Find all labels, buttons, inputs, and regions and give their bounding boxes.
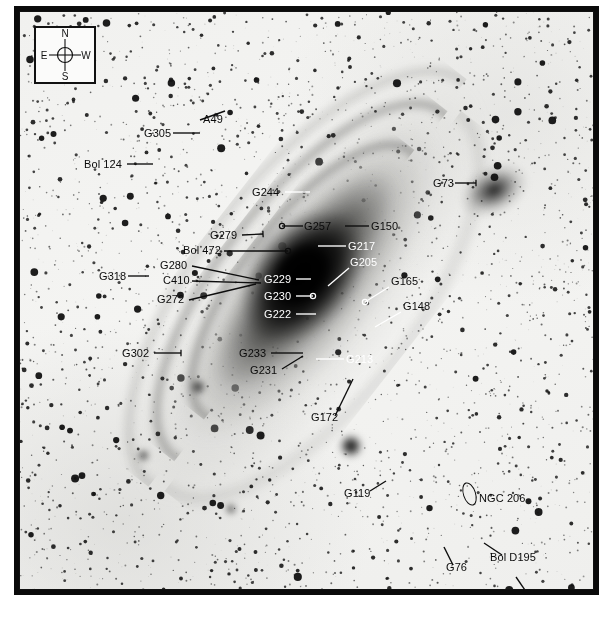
leader-line-c410 xyxy=(192,281,261,283)
object-label-g150: G150 xyxy=(371,221,398,232)
object-label-g217: G217 xyxy=(348,241,375,252)
object-label-g318: G318 xyxy=(99,271,126,282)
object-label-a49: A49 xyxy=(203,114,223,125)
leader-line-g119 xyxy=(370,481,386,491)
image-frame: A49G305Bol 124G73G244G257G150G279G217Bol… xyxy=(14,6,599,595)
leader-line-g205 xyxy=(328,268,349,286)
object-label-g73: G73 xyxy=(433,178,454,189)
object-label-g230: G230 xyxy=(264,291,291,302)
object-label-g231: G231 xyxy=(250,365,277,376)
object-label-bol472: Bol 472 xyxy=(183,245,221,256)
object-label-g148: G148 xyxy=(403,301,430,312)
compass-label-west: W xyxy=(81,50,91,61)
compass-label-north: N xyxy=(61,28,68,39)
object-label-c410: C410 xyxy=(163,275,190,286)
leader-line-g280 xyxy=(192,266,259,280)
object-label-g233: G233 xyxy=(239,348,266,359)
object-label-g222: G222 xyxy=(264,309,291,320)
leader-line-g148 xyxy=(375,312,401,327)
object-label-g205: G205 xyxy=(350,257,377,268)
object-label-bold195: Bol D195 xyxy=(490,552,536,563)
image-canvas: A49G305Bol 124G73G244G257G150G279G217Bol… xyxy=(19,11,594,590)
object-label-g172: G172 xyxy=(311,412,338,423)
object-label-g213: G213 xyxy=(346,354,373,365)
leader-line-g33 xyxy=(516,577,527,590)
object-label-g257: G257 xyxy=(304,221,331,232)
object-label-g272: G272 xyxy=(157,294,184,305)
object-label-g302: G302 xyxy=(122,348,149,359)
compass-label-east: E xyxy=(41,50,48,61)
object-label-g280: G280 xyxy=(160,260,187,271)
object-label-g76: G76 xyxy=(446,562,467,573)
leader-line-g165 xyxy=(365,287,389,302)
compass-label-south: S xyxy=(62,71,69,82)
figure-plate: A49G305Bol 124G73G244G257G150G279G217Bol… xyxy=(0,0,612,625)
compass-rose: N S E W xyxy=(34,26,96,84)
leader-line-g279 xyxy=(242,234,263,235)
object-label-ngc206: NGC 206 xyxy=(479,493,526,504)
object-label-g305: G305 xyxy=(144,128,171,139)
leader-line-g272 xyxy=(189,284,256,300)
object-label-g165: G165 xyxy=(391,276,418,287)
object-label-g229: G229 xyxy=(264,274,291,285)
object-label-g244: G244 xyxy=(252,187,279,198)
object-label-bol124: Bol 124 xyxy=(84,159,122,170)
leader-line-g231 xyxy=(282,356,303,369)
object-label-g279: G279 xyxy=(210,230,237,241)
object-label-g119: G119 xyxy=(344,488,371,499)
